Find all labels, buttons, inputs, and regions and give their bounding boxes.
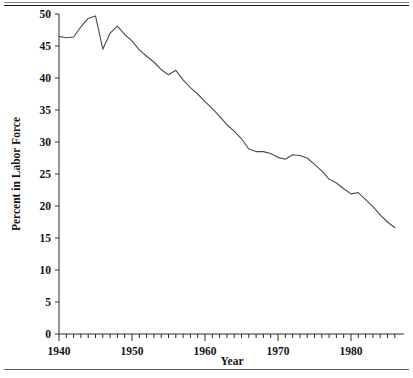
figure-container: 05101520253035404550 1940195019601970198…: [0, 0, 413, 378]
line-chart: 05101520253035404550 1940195019601970198…: [0, 0, 413, 378]
x-axis-tick-label: 1980: [340, 345, 363, 357]
x-axis-tick-label: 1970: [267, 345, 290, 357]
y-axis-ticks: [55, 14, 59, 334]
y-axis-title: Percent in Labor Force: [10, 117, 22, 231]
y-axis-tick-label: 10: [40, 264, 52, 276]
y-axis-tick-label: 0: [45, 328, 51, 340]
x-axis-tick-label: 1960: [194, 345, 217, 357]
x-axis-tick-labels: 19401950196019701980: [48, 345, 363, 357]
x-axis-tick-label: 1940: [48, 345, 71, 357]
y-axis-tick-label: 45: [40, 40, 52, 52]
y-axis-tick-label: 25: [40, 168, 52, 180]
y-axis-tick-label: 5: [45, 296, 51, 308]
y-axis-tick-label: 35: [40, 104, 52, 116]
x-axis-title: Year: [221, 355, 244, 367]
data-series-line: [59, 16, 395, 228]
y-axis-tick-labels: 05101520253035404550: [40, 8, 52, 340]
y-axis-tick-label: 50: [40, 8, 52, 20]
y-axis-tick-label: 20: [40, 200, 52, 212]
y-axis-tick-label: 40: [40, 72, 52, 84]
y-axis-tick-label: 30: [40, 136, 52, 148]
y-axis-tick-label: 15: [40, 232, 52, 244]
x-axis-ticks: [59, 334, 395, 341]
x-axis-tick-label: 1950: [121, 345, 144, 357]
